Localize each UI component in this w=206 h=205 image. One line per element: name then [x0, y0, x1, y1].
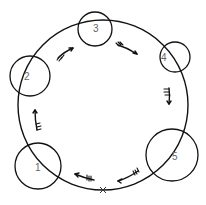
stop-5-label: 5: [172, 151, 178, 162]
stop-5: 5: [146, 129, 198, 181]
diagram-canvas: 1 2 3 4 5: [0, 0, 206, 205]
arrow-1-to-2-icon: [33, 110, 41, 130]
arrow-x-to-1-icon: [75, 173, 94, 181]
stop-3-label: 3: [93, 23, 99, 34]
arrow-2-to-3-icon: [57, 48, 73, 61]
route-diagram: 1 2 3 4 5: [0, 0, 206, 205]
stop-1-label: 1: [35, 162, 41, 173]
arrow-3-to-4-icon: [116, 42, 137, 54]
stop-4: 4: [160, 42, 190, 72]
stop-4-label: 4: [161, 52, 167, 63]
arrow-4-to-5-icon: [164, 88, 171, 104]
stop-1: 1: [15, 143, 61, 189]
stop-2-label: 2: [24, 71, 30, 82]
stop-3: 3: [78, 12, 112, 46]
arrow-5-to-x-icon: [118, 168, 139, 183]
route-ring: [18, 20, 188, 190]
